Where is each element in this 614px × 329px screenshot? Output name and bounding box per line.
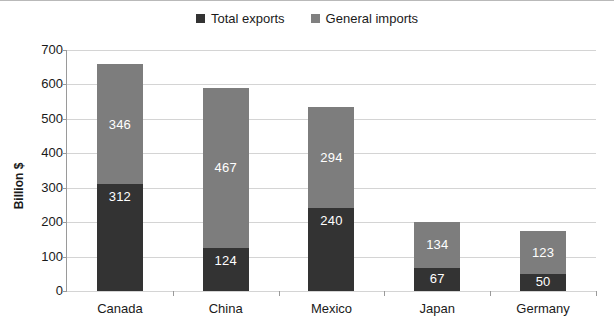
bar-value-label: 312 [109,190,131,203]
x-axis-category-label: Mexico [279,302,385,316]
bar-group[interactable]: 467124 [173,50,279,291]
y-axis-tick-label: 200 [23,215,63,228]
x-axis-category-label: China [173,302,279,316]
bar-group[interactable]: 294240 [279,50,385,291]
bar-segment-general-imports[interactable]: 294 [308,107,354,208]
x-axis-category-label: Germany [490,302,596,316]
legend-label-general-imports: General imports [326,12,418,25]
bar-stack[interactable]: 294240 [308,107,354,291]
bar-value-label: 50 [536,275,551,288]
bar-stack[interactable]: 12350 [520,231,566,291]
bar-series-group: 3463124671242942401346712350 [67,50,596,291]
y-axis-tick-label: 700 [23,43,63,56]
legend-swatch-icon-general-imports [311,14,320,23]
bar-segment-general-imports[interactable]: 123 [520,231,566,273]
bar-value-label: 124 [215,254,237,267]
legend-label-total-exports: Total exports [211,12,285,25]
bar-value-label: 294 [320,151,342,164]
x-axis-separator-tick [596,291,597,296]
bar-segment-general-imports[interactable]: 134 [414,222,460,268]
bar-segment-total-exports[interactable]: 67 [414,268,460,291]
bar-segment-total-exports[interactable]: 50 [520,274,566,291]
x-axis-category-label: Japan [384,302,490,316]
bar-segment-total-exports[interactable]: 240 [308,208,354,291]
legend-item-general-imports[interactable]: General imports [311,12,418,25]
legend-item-total-exports[interactable]: Total exports [196,12,285,25]
x-axis-separator-tick [384,291,385,296]
bar-value-label: 134 [426,238,448,251]
y-axis-tick-label: 600 [23,77,63,90]
bar-value-label: 123 [532,246,554,259]
y-axis-tick-label: 500 [23,112,63,125]
legend-swatch-icon-total-exports [196,14,205,23]
bar-segment-general-imports[interactable]: 467 [203,88,249,249]
y-axis-tick-label: 0 [23,284,63,297]
gridline [67,291,596,292]
x-axis-separator-tick [490,291,491,296]
y-axis-tick-label: 100 [23,250,63,263]
y-axis-tick-mark [63,291,67,292]
bar-segment-total-exports[interactable]: 124 [203,248,249,291]
y-axis-tick-label: 400 [23,146,63,159]
plot-area: 7006005004003002001000 34631246712429424… [66,50,596,292]
bar-stack[interactable]: 13467 [414,222,460,291]
chart-screenshot: Total exports General imports Billion $ … [0,0,614,329]
bar-segment-general-imports[interactable]: 346 [97,64,143,183]
y-axis-tick-label: 300 [23,181,63,194]
bar-stack[interactable]: 467124 [203,88,249,291]
bar-value-label: 467 [215,161,237,174]
bar-group[interactable]: 13467 [384,50,490,291]
bar-value-label: 346 [109,118,131,131]
bar-group[interactable]: 346312 [67,50,173,291]
x-axis-category-label: Canada [67,302,173,316]
x-axis-separator-tick [279,291,280,296]
bar-segment-total-exports[interactable]: 312 [97,184,143,291]
bar-group[interactable]: 12350 [490,50,596,291]
bar-value-label: 67 [430,272,445,285]
x-axis-separator-tick [173,291,174,296]
bar-value-label: 240 [320,214,342,227]
bar-stack[interactable]: 346312 [97,64,143,291]
chart-legend: Total exports General imports [0,12,614,25]
